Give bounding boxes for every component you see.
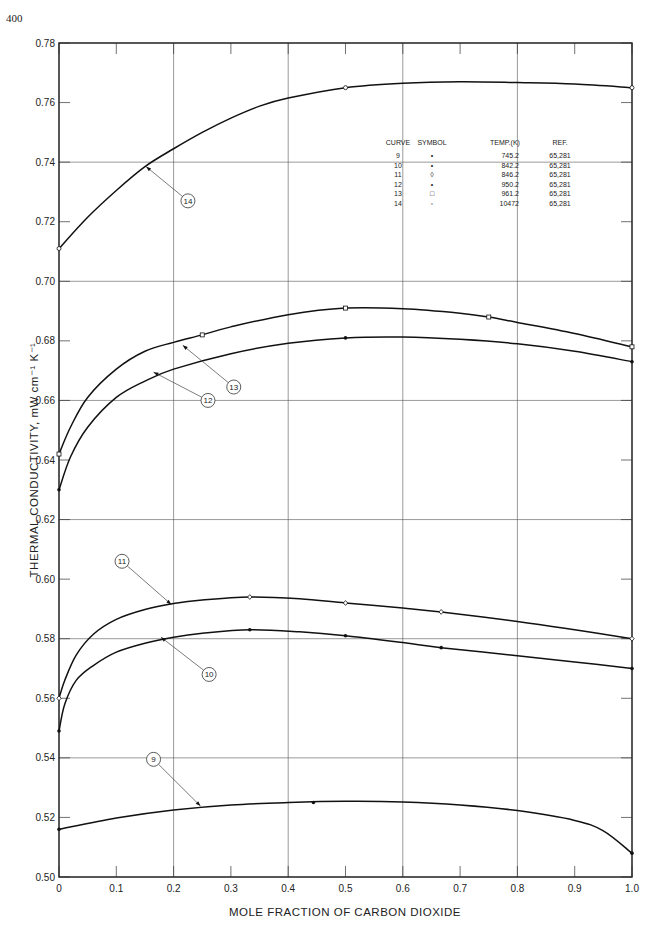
legend-cell: 10 <box>394 162 402 169</box>
marker-dot-icon <box>439 646 443 650</box>
axes <box>59 43 632 877</box>
y-tick-label: 0.72 <box>36 216 56 227</box>
marker-dot-icon <box>57 729 61 733</box>
y-tick-label: 0.74 <box>36 157 56 168</box>
y-tick-label: 0.52 <box>36 812 56 823</box>
legend-cell: 65,281 <box>549 200 571 207</box>
marker-dot-icon <box>630 851 634 855</box>
legend-symbol-icon: • <box>431 162 434 169</box>
marker-circle-icon <box>630 86 634 90</box>
legend-cell: 10472 <box>500 200 520 207</box>
legend-cell: 65,281 <box>549 190 571 197</box>
curve-callouts: 14131211109 <box>115 167 241 806</box>
plot-frame <box>59 43 632 877</box>
callout-label: 10 <box>205 670 214 679</box>
curve-14 <box>59 82 632 249</box>
legend-symbol-icon: ◊ <box>430 171 434 178</box>
legend-cell: 846.2 <box>501 171 519 178</box>
legend-cell: 950.2 <box>501 181 519 188</box>
x-tick-label: 0.9 <box>568 883 582 894</box>
legend-cell: 9 <box>396 152 400 159</box>
marker-dot-icon <box>630 360 634 364</box>
legend-cell: 13 <box>394 190 402 197</box>
marker-dot-icon <box>57 828 61 832</box>
legend-cell: 65,281 <box>549 152 571 159</box>
x-tick-label: 0.4 <box>281 883 295 894</box>
legend-cell: 842.2 <box>501 162 519 169</box>
thermal-conductivity-chart: 00.10.20.30.40.50.60.70.80.91.00.500.520… <box>0 0 660 942</box>
data-curves <box>59 82 632 853</box>
curve-9 <box>59 801 632 853</box>
legend-header: REF. <box>552 139 567 146</box>
legend-header: SYMBOL <box>417 139 446 146</box>
grid-lines <box>59 43 632 877</box>
y-tick-label: 0.54 <box>36 752 56 763</box>
marker-diamond-icon <box>57 696 61 701</box>
x-tick-label: 0 <box>56 883 62 894</box>
x-tick-label: 0.3 <box>224 883 238 894</box>
x-axis-title: MOLE FRACTION OF CARBON DIOXIDE <box>229 906 461 918</box>
legend-cell: 11 <box>394 171 401 178</box>
marker-circle-icon <box>344 86 348 90</box>
marker-diamond-icon <box>343 601 347 606</box>
legend-header: TEMP.(K) <box>490 139 520 147</box>
legend-symbol-icon: ◦ <box>431 200 433 207</box>
x-tick-label: 0.1 <box>109 883 123 894</box>
y-axis-title: THERMAL CONDUCTIVITY, mW cm⁻¹ K⁻¹ <box>28 343 40 578</box>
callout-label: 14 <box>183 197 192 206</box>
y-tick-label: 0.50 <box>36 872 56 883</box>
marker-dot-icon <box>248 628 252 632</box>
callout-leader <box>146 167 182 197</box>
legend-cell: 14 <box>394 200 402 207</box>
marker-dot-icon <box>344 634 348 638</box>
callout-label: 11 <box>118 557 127 566</box>
x-tick-label: 0.2 <box>167 883 181 894</box>
callout-leader <box>127 566 171 605</box>
x-tick-label: 0.7 <box>453 883 467 894</box>
y-tick-label: 0.70 <box>36 276 56 287</box>
marker-dot-icon <box>630 667 634 671</box>
y-tick-label: 0.58 <box>36 633 56 644</box>
y-tick-label: 0.78 <box>36 38 56 49</box>
callout-leader <box>154 372 202 397</box>
y-tick-label: 0.56 <box>36 693 56 704</box>
callout-leader <box>159 764 201 806</box>
x-tick-label: 0.6 <box>396 883 410 894</box>
marker-square-icon <box>57 452 61 456</box>
marker-square-icon <box>487 315 491 319</box>
marker-square-icon <box>630 345 634 349</box>
x-tick-label: 1.0 <box>625 883 639 894</box>
marker-diamond-icon <box>439 610 443 615</box>
legend-cell: 65,281 <box>549 162 571 169</box>
curve-12 <box>59 337 632 490</box>
legend-symbol-icon: • <box>431 181 434 188</box>
legend-cell: 65,281 <box>549 181 571 188</box>
curve-11 <box>59 597 632 698</box>
legend-symbol-icon: • <box>431 152 434 159</box>
legend: CURVESYMBOLTEMP.(K)REF.9•745.265,28110•8… <box>386 139 571 207</box>
x-tick-label: 0.8 <box>510 883 524 894</box>
marker-dot-icon <box>57 488 61 492</box>
marker-dot-icon <box>344 336 348 340</box>
marker-square-icon <box>344 306 348 310</box>
callout-leader <box>161 637 204 670</box>
callout-label: 13 <box>229 383 238 392</box>
marker-diamond-icon <box>630 636 634 641</box>
legend-symbol-icon: □ <box>430 190 435 197</box>
callout-label: 9 <box>151 755 156 764</box>
legend-cell: 12 <box>394 181 402 188</box>
legend-cell: 745.2 <box>501 152 519 159</box>
x-tick-label: 0.5 <box>339 883 353 894</box>
marker-square-icon <box>200 333 204 337</box>
legend-cell: 961.2 <box>501 190 519 197</box>
callout-label: 12 <box>204 396 213 405</box>
legend-header: CURVE <box>386 139 411 146</box>
legend-cell: 65,281 <box>549 171 571 178</box>
y-tick-label: 0.76 <box>36 97 56 108</box>
marker-dot-icon <box>312 801 316 805</box>
marker-circle-icon <box>57 247 61 251</box>
marker-diamond-icon <box>248 595 252 600</box>
curve-10 <box>59 630 632 731</box>
data-markers <box>57 86 634 855</box>
